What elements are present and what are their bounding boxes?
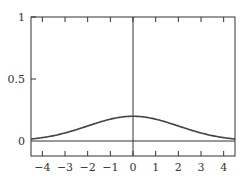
- x-tick-label: −3: [57, 161, 73, 174]
- y-tick-label: 1: [18, 11, 25, 24]
- y-tick-label: 0: [18, 135, 25, 148]
- chart: −4−3−2−101234 00.51: [0, 0, 242, 179]
- x-tick-label: 3: [198, 161, 205, 174]
- x-tick-label: −4: [34, 161, 50, 174]
- x-tick-label: 4: [220, 161, 227, 174]
- y-tick-label: 0.5: [8, 73, 26, 86]
- x-tick-label: −1: [102, 161, 118, 174]
- y-axis-ticks: 00.51: [8, 11, 37, 148]
- x-tick-label: −2: [80, 161, 96, 174]
- x-axis-ticks: −4−3−2−101234: [34, 17, 227, 174]
- x-tick-label: 0: [130, 161, 137, 174]
- x-tick-label: 1: [152, 161, 159, 174]
- x-tick-label: 2: [175, 161, 182, 174]
- reference-lines: [31, 17, 235, 156]
